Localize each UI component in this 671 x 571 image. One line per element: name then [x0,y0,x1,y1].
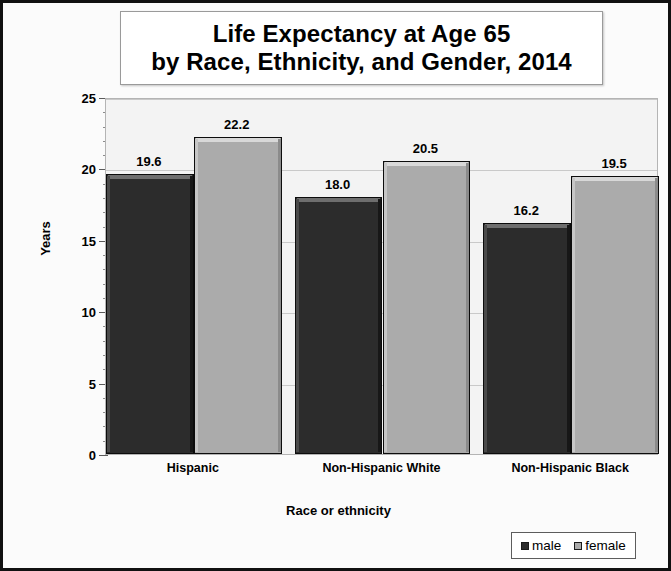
gridline [106,170,657,171]
bar-value-label: 18.0 [294,177,382,192]
bar-female-non-hispanic-white[interactable] [383,161,471,454]
y-axis-tick-label: 15 [82,233,96,248]
y-axis-tick-label: 10 [82,305,96,320]
top-bevel [485,224,569,228]
right-bevel [655,178,658,452]
bar-male-non-hispanic-black[interactable] [483,223,571,454]
chart-title-line-2: by Race, Ethnicity, and Gender, 2014 [151,48,572,76]
bar-value-label: 20.5 [382,141,470,156]
top-bevel [385,162,469,166]
x-axis-category-label: Non-Hispanic Black [482,461,658,475]
y-axis-major-tick [99,455,108,456]
y-axis-tick-label: 0 [89,448,96,463]
y-axis-tick-label: 25 [82,91,96,106]
left-bevel [107,176,110,452]
chart-legend[interactable]: malefemale [511,532,636,559]
right-bevel [190,176,193,452]
gridline [106,99,657,100]
left-bevel [572,178,575,452]
right-bevel [278,139,281,452]
y-axis-tick-label: 5 [89,376,96,391]
top-bevel [297,198,381,202]
legend-label: male [532,538,561,553]
x-axis-title: Race or ethnicity [3,503,671,518]
left-bevel [384,163,387,452]
right-bevel [567,225,570,452]
y-axis-title: Years [38,194,53,284]
left-bevel [195,139,198,452]
top-bevel [108,175,192,179]
top-bevel [196,138,280,142]
bar-value-label: 19.5 [570,156,658,171]
legend-entry-male[interactable]: male [521,538,561,553]
bar-male-non-hispanic-white[interactable] [295,197,383,454]
legend-entry-female[interactable]: female [574,538,626,553]
y-axis-tick-labels: 0510152025 [63,98,96,455]
bar-male-hispanic[interactable] [106,174,194,454]
legend-label: female [585,538,626,553]
right-bevel [378,199,381,452]
chart-title: Life Expectancy at Age 65 by Race, Ethni… [120,11,603,85]
chart-title-line-1: Life Expectancy at Age 65 [213,20,511,48]
left-bevel [484,225,487,452]
bar-female-hispanic[interactable] [194,137,282,454]
right-bevel [466,163,469,452]
bar-value-label: 19.6 [105,154,193,169]
bar-value-label: 16.2 [482,203,570,218]
left-bevel [296,199,299,452]
x-axis-category-label: Hispanic [105,461,281,475]
chart-figure: Life Expectancy at Age 65 by Race, Ethni… [0,0,671,571]
legend-swatch-icon [521,542,529,550]
x-axis-category-label: Non-Hispanic White [294,461,470,475]
bar-female-non-hispanic-black[interactable] [571,176,659,454]
legend-swatch-icon [574,542,582,550]
top-bevel [573,177,657,181]
y-axis-tick-label: 20 [82,162,96,177]
bar-value-label: 22.2 [193,117,281,132]
